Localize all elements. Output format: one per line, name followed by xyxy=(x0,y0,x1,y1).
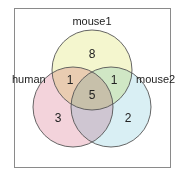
mouse2-label: mouse2 xyxy=(136,73,175,85)
mouse1-label: mouse1 xyxy=(72,15,111,27)
human-label: human xyxy=(12,73,46,85)
venn-diagram: mouse1 human mouse2 8 1 1 5 3 2 xyxy=(0,0,184,178)
count-human-mouse1: 1 xyxy=(67,73,74,87)
count-mouse2-only: 2 xyxy=(125,111,132,125)
count-mouse1-mouse2: 1 xyxy=(111,73,118,87)
count-human-only: 3 xyxy=(55,111,62,125)
count-mouse1-only: 8 xyxy=(89,47,96,61)
count-all-three: 5 xyxy=(89,88,96,102)
